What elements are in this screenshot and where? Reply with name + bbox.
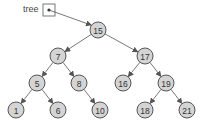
- edge-arrow: [21, 89, 32, 103]
- tree-node: 6: [50, 102, 66, 118]
- node-value: 16: [118, 79, 128, 89]
- node-value: 17: [140, 52, 150, 62]
- tree-node: 16: [115, 75, 131, 91]
- edge-arrow: [150, 89, 161, 103]
- tree-node: 18: [137, 102, 153, 118]
- edge-arrow: [63, 62, 74, 76]
- edge-arrow: [171, 89, 182, 103]
- edge-arrow: [42, 62, 53, 76]
- tree-node: 7: [50, 48, 66, 64]
- node-value: 6: [56, 106, 61, 116]
- tree-node: 5: [29, 75, 45, 91]
- tree-node: 15: [90, 22, 106, 38]
- node-value: 8: [77, 79, 82, 89]
- tree-node: 1: [8, 102, 24, 118]
- tree-node: 10: [92, 102, 108, 118]
- edge-arrow: [42, 89, 53, 103]
- tree-node: 21: [179, 102, 195, 118]
- node-value: 5: [35, 79, 40, 89]
- node-value: 1: [14, 106, 19, 116]
- node-value: 15: [93, 26, 103, 36]
- node-value: 7: [56, 52, 61, 62]
- node-value: 10: [95, 106, 105, 116]
- tree-pointer-label: tree: [23, 4, 39, 14]
- tree-edges: [21, 34, 182, 103]
- edge-arrow: [105, 34, 138, 52]
- tree-node: 8: [71, 75, 87, 91]
- node-value: 18: [140, 106, 150, 116]
- edge-arrow: [84, 89, 95, 103]
- edge-arrow: [65, 34, 91, 51]
- node-value: 21: [182, 106, 192, 116]
- tree-nodes: 1571758161916101821: [8, 22, 195, 118]
- edge-arrow: [150, 62, 161, 76]
- edge-arrow: [128, 62, 140, 76]
- tree-node: 17: [137, 48, 153, 64]
- root-pointer-arrow: [49, 10, 91, 25]
- node-value: 19: [161, 79, 171, 89]
- tree-node: 19: [158, 75, 174, 91]
- bst-diagram: tree 1571758161916101821: [0, 0, 209, 127]
